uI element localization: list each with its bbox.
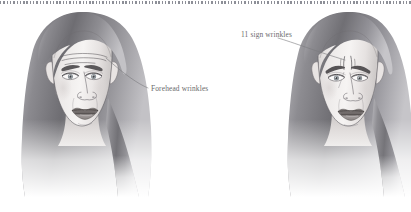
label-eleven-sign-wrinkles: 11 sign wrinkles [241,31,292,38]
faces-illustration [0,0,411,212]
label-forehead-wrinkles: Forehead wrinkles [151,85,208,92]
illustration-figure: Forehead wrinkles 11 sign wrinkles [0,0,411,212]
right-face-group [288,12,411,197]
left-face-group [22,12,152,197]
